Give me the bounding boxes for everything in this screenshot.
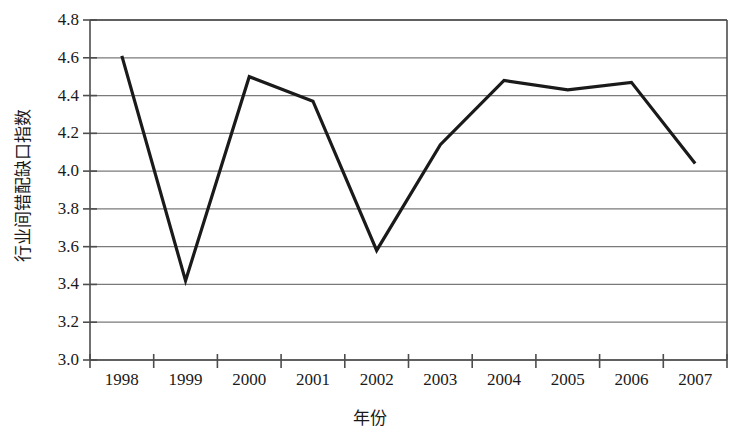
x-axis-tick-label: 2004 bbox=[469, 370, 539, 390]
x-axis-tick-label: 2003 bbox=[405, 370, 475, 390]
x-axis-tick-label: 2006 bbox=[596, 370, 666, 390]
x-axis-title: 年份 bbox=[0, 404, 739, 429]
x-axis-tick-label: 2001 bbox=[278, 370, 348, 390]
axis-lines bbox=[90, 20, 727, 360]
line-chart: 行业间错配缺口指数 4.84.64.44.24.03.83.63.43.23.0… bbox=[0, 0, 739, 431]
plot-area bbox=[0, 0, 739, 431]
x-axis-tick-label: 2005 bbox=[533, 370, 603, 390]
x-axis-tick-label: 1998 bbox=[87, 370, 157, 390]
x-axis-tick-label: 1999 bbox=[151, 370, 221, 390]
gridlines bbox=[90, 20, 727, 360]
x-axis-tick-label: 2000 bbox=[214, 370, 284, 390]
x-axis-ticks bbox=[90, 354, 727, 368]
x-axis-tick-label: 2007 bbox=[660, 370, 730, 390]
x-axis-tick-label: 2002 bbox=[342, 370, 412, 390]
